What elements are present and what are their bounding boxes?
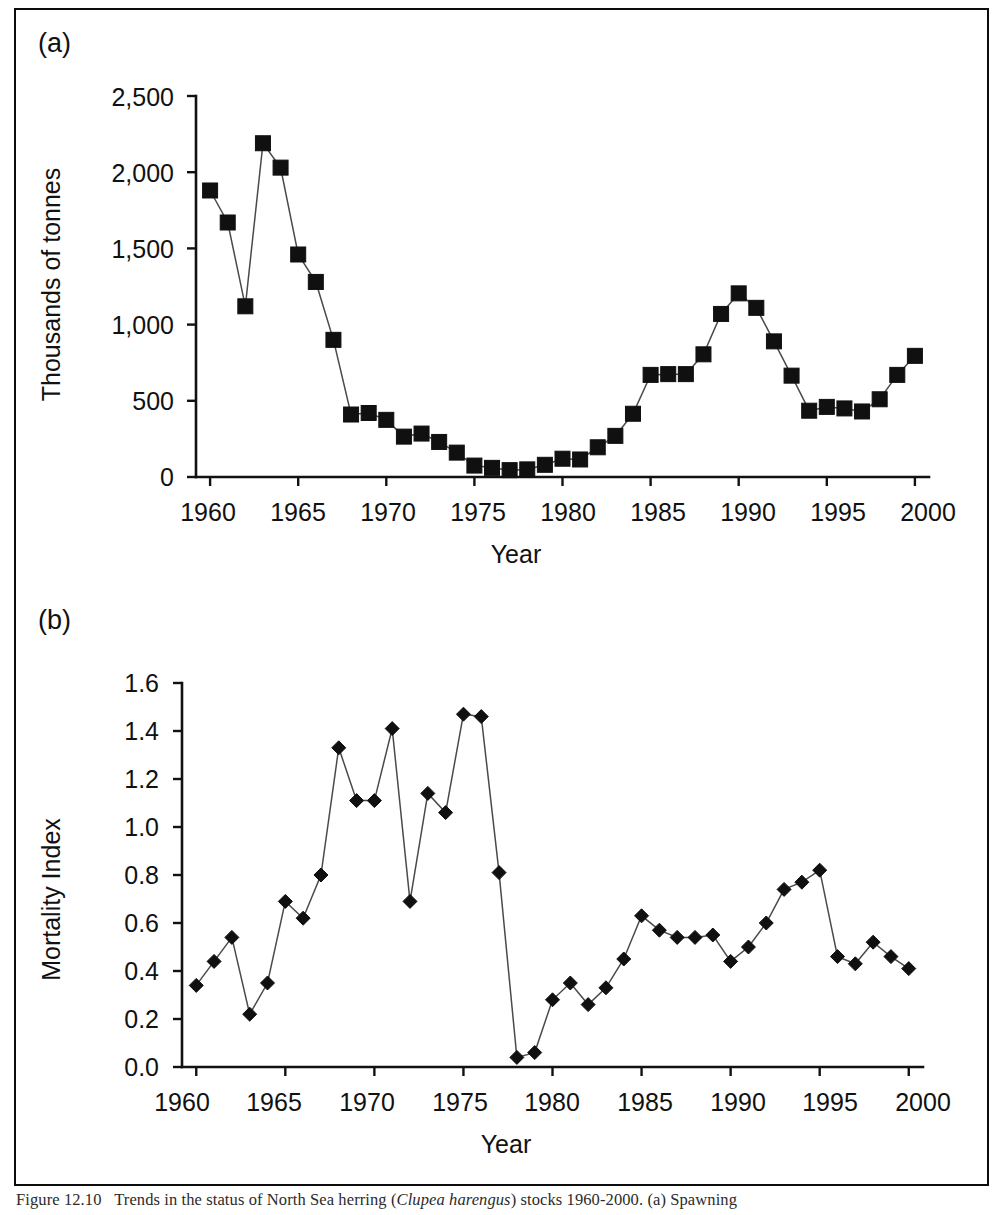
data-point-1984 xyxy=(617,952,631,966)
data-point-1977 xyxy=(502,463,517,478)
data-point-1967 xyxy=(314,868,328,882)
data-markers-group xyxy=(203,136,923,478)
data-point-1980 xyxy=(555,451,570,466)
data-point-1997 xyxy=(855,404,870,419)
data-point-1966 xyxy=(308,274,323,289)
data-point-2000 xyxy=(902,962,916,976)
figure-caption: Figure 12.10 Trends in the status of Nor… xyxy=(16,1190,996,1210)
data-point-1991 xyxy=(749,300,764,315)
data-point-1970 xyxy=(379,412,394,427)
data-point-1977 xyxy=(492,866,506,880)
caption-body: Trends in the status of North Sea herrin… xyxy=(114,1190,396,1209)
data-point-1970 xyxy=(367,794,381,808)
data-point-1969 xyxy=(350,794,364,808)
caption-prefix: Figure 12.10 xyxy=(16,1190,102,1209)
data-point-1976 xyxy=(474,710,488,724)
data-point-1960 xyxy=(189,978,203,992)
data-point-1994 xyxy=(802,403,817,418)
data-point-1996 xyxy=(831,950,845,964)
data-point-1961 xyxy=(220,215,235,230)
data-point-1976 xyxy=(485,460,500,475)
panel-b-plot-area xyxy=(16,595,991,1185)
data-point-1983 xyxy=(608,428,623,443)
axes-group xyxy=(187,96,929,486)
data-point-1986 xyxy=(661,367,676,382)
data-point-1967 xyxy=(326,332,341,347)
data-point-2000 xyxy=(907,348,922,363)
data-point-1992 xyxy=(766,334,781,349)
data-point-1988 xyxy=(696,347,711,362)
data-point-1987 xyxy=(670,930,684,944)
data-point-1975 xyxy=(456,707,470,721)
data-point-1984 xyxy=(625,406,640,421)
data-point-1994 xyxy=(795,875,809,889)
data-point-1968 xyxy=(332,741,346,755)
data-point-1993 xyxy=(777,882,791,896)
data-point-1979 xyxy=(528,1046,542,1060)
data-point-1972 xyxy=(403,894,417,908)
data-point-1985 xyxy=(643,367,658,382)
data-point-1989 xyxy=(706,928,720,942)
data-point-1974 xyxy=(449,445,464,460)
data-markers-group xyxy=(189,707,916,1064)
data-point-1960 xyxy=(203,183,218,198)
data-point-1961 xyxy=(207,954,221,968)
data-point-1999 xyxy=(890,367,905,382)
data-point-1964 xyxy=(273,160,288,175)
data-point-1972 xyxy=(414,426,429,441)
data-point-1990 xyxy=(731,286,746,301)
data-point-1978 xyxy=(510,1050,524,1064)
data-point-1965 xyxy=(291,247,306,262)
data-point-1971 xyxy=(396,429,411,444)
data-point-1963 xyxy=(255,136,270,151)
data-point-1973 xyxy=(432,434,447,449)
data-point-1996 xyxy=(837,401,852,416)
data-point-1963 xyxy=(243,1007,257,1021)
data-point-1995 xyxy=(819,399,834,414)
data-point-1964 xyxy=(261,976,275,990)
data-point-1981 xyxy=(573,452,588,467)
data-point-1978 xyxy=(520,462,535,477)
data-point-1969 xyxy=(361,405,376,420)
data-point-1987 xyxy=(678,367,693,382)
data-point-1962 xyxy=(238,299,253,314)
panel-a: (a) Thousands of tonnes 2,500 2,000 1,50… xyxy=(16,10,991,570)
data-point-1995 xyxy=(813,863,827,877)
data-point-1993 xyxy=(784,368,799,383)
data-point-1962 xyxy=(225,930,239,944)
data-point-1998 xyxy=(872,392,887,407)
page-canvas: (a) Thousands of tonnes 2,500 2,000 1,50… xyxy=(0,0,1002,1215)
figure-frame: (a) Thousands of tonnes 2,500 2,000 1,50… xyxy=(14,8,989,1186)
data-point-1968 xyxy=(344,407,359,422)
data-point-1971 xyxy=(385,722,399,736)
data-point-1989 xyxy=(714,306,729,321)
data-series-line xyxy=(210,143,915,470)
caption-species-name: Clupea harengus xyxy=(397,1190,511,1209)
axes-group xyxy=(173,683,923,1076)
data-point-1992 xyxy=(759,916,773,930)
panel-a-plot-area xyxy=(16,10,991,570)
data-point-1982 xyxy=(590,440,605,455)
data-point-1979 xyxy=(537,457,552,472)
caption-body-2: ) stocks 1960-2000. (a) Spawning xyxy=(511,1190,737,1209)
panel-b: (b) Mortality Index 1.6 1.4 1.2 1.0 0.8 … xyxy=(16,595,991,1185)
data-point-1988 xyxy=(688,930,702,944)
data-point-1975 xyxy=(467,458,482,473)
